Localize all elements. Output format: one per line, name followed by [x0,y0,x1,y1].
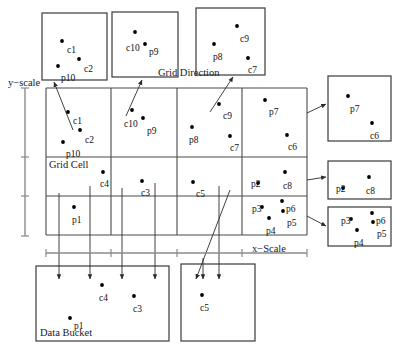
point-c4 [100,283,104,287]
point-p10 [56,64,60,68]
point-label-c9: c9 [223,112,232,122]
point-p8 [212,42,216,46]
point-label-c4: c4 [99,294,108,304]
box-data-bucket-2 [181,264,255,341]
point-p9 [143,42,147,46]
point-c5 [200,293,204,297]
point-label-c5: c5 [196,190,205,200]
x-scale-label: x−Scale [252,244,286,255]
diagram-canvas: c1c2p10c10p9c9p8c7p7c6c4c3c5p2c8p1p3p6p5… [0,0,395,360]
point-p7 [263,98,267,102]
point-label-p4: p4 [266,227,276,237]
point-c3 [140,179,144,183]
point-label-p5: p5 [287,219,297,229]
point-label-c7: c7 [230,144,239,154]
point-label-c10: c10 [124,120,138,130]
point-p4 [267,216,271,220]
point-label-c6: c6 [370,132,379,142]
point-p10 [61,140,65,144]
leader-cell-r1c2 [126,80,142,116]
y-scale-label: y−scale [8,78,40,89]
point-label-c2: c2 [85,136,94,146]
point-label-c9: c9 [240,35,249,45]
point-label-p2: p2 [336,185,346,195]
point-label-p6: p6 [286,205,296,215]
point-p1 [68,316,72,320]
point-c6 [285,133,289,137]
point-label-p7: p7 [350,105,360,115]
point-c1 [60,39,64,43]
point-p5 [281,209,285,213]
point-c2 [77,57,81,61]
point-c6 [370,121,374,125]
point-label-p8: p8 [189,136,199,146]
point-label-c1: c1 [67,46,76,56]
point-p9 [141,116,145,120]
point-p6 [370,211,374,215]
point-p8 [190,125,194,129]
leader-cell-r1c3 [210,77,233,112]
point-label-c4: c4 [100,180,109,190]
leader-cell-r1c1 [54,82,73,130]
point-label-c5: c5 [200,304,209,314]
point-label-c6: c6 [288,143,297,153]
point-p5 [371,220,375,224]
point-c10 [130,108,134,112]
point-c7 [228,134,232,138]
point-label-c2: c2 [84,65,93,75]
point-label-p4: p4 [354,239,364,249]
diagram-vector-layer [0,0,395,360]
point-p7 [346,94,350,98]
point-label-c10: c10 [126,44,140,54]
point-label-c3: c3 [133,305,142,315]
grid-cell-label: Grid Cell [49,160,88,171]
point-c1 [66,110,70,114]
point-c4 [101,170,105,174]
point-label-p10: p10 [61,74,75,84]
point-label-p2: p2 [251,180,261,190]
grid-direction-label: Grid Direction [158,68,220,79]
point-p6 [280,199,284,203]
point-p4 [355,228,359,232]
leader-cell-r1c4 [307,104,326,113]
point-label-p3: p3 [341,217,351,227]
point-label-p8: p8 [213,53,223,63]
point-p1 [72,205,76,209]
point-c8 [283,170,287,174]
point-label-c3: c3 [141,189,150,199]
point-label-p1: p1 [72,216,82,226]
point-label-c8: c8 [283,182,292,192]
point-label-p9: p9 [149,48,159,58]
point-c5 [191,180,195,184]
point-label-p6: p6 [376,217,386,227]
point-c9 [217,102,221,106]
point-label-p3: p3 [252,205,262,215]
point-label-p7: p7 [269,108,279,118]
point-c9 [235,24,239,28]
leader-cell-r3c4 [307,216,326,226]
point-label-c7: c7 [248,66,257,76]
point-label-c8: c8 [366,187,375,197]
point-label-c1: c1 [73,117,82,127]
point-c7 [246,56,250,60]
point-c10 [133,30,137,34]
point-label-p5: p5 [377,230,387,240]
point-c3 [132,294,136,298]
point-c8 [367,175,371,179]
point-c2 [78,128,82,132]
leader-cell-r2c4 [307,177,326,180]
point-label-p9: p9 [147,127,157,137]
data-bucket-label: Data Bucket [40,328,92,339]
scale-rulers [21,88,307,257]
